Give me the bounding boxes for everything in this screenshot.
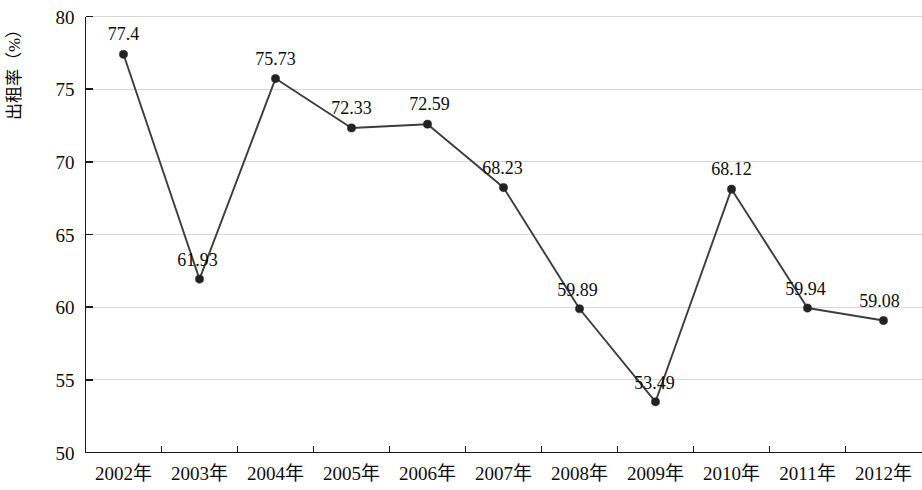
data-point-marker: [499, 183, 507, 191]
data-point-marker: [347, 124, 355, 132]
x-axis-tick-label: 2006年: [399, 463, 456, 484]
data-value-label: 61.93: [177, 250, 218, 270]
y-axis-tick-label: 55: [56, 370, 75, 391]
data-point-marker: [575, 305, 583, 313]
x-axis-tick-label: 2011年: [779, 463, 835, 484]
data-point-marker: [651, 398, 659, 406]
x-axis-tick-label: 2005年: [323, 463, 380, 484]
data-value-label: 68.23: [482, 158, 523, 178]
x-axis-tick-label: 2007年: [475, 463, 532, 484]
data-value-label: 77.4: [108, 24, 140, 44]
x-axis-tick-label: 2009年: [627, 463, 684, 484]
data-point-marker: [727, 185, 735, 193]
x-axis-tick-label: 2012年: [855, 463, 912, 484]
data-point-marker: [803, 304, 811, 312]
data-value-label: 72.59: [409, 94, 450, 114]
y-axis-tick-label: 70: [56, 152, 75, 173]
x-axis-tick-label: 2008年: [551, 463, 608, 484]
y-axis-tick-label: 60: [56, 297, 75, 318]
y-axis-tick-label: 75: [56, 79, 75, 100]
data-value-label: 59.89: [557, 280, 598, 300]
series-line-out-rate: [124, 54, 884, 401]
data-point-marker: [119, 50, 127, 58]
data-value-label: 75.73: [255, 49, 296, 69]
x-axis-tick-labels: 2002年2003年2004年2005年2006年2007年2008年2009年…: [95, 463, 912, 484]
data-value-label: 68.12: [711, 159, 752, 179]
data-value-label: 59.94: [785, 279, 826, 299]
x-axis-ticks: [162, 446, 846, 453]
line-chart: 出租率（%） 50556065707580 2002年2003年2004年200…: [0, 0, 922, 490]
x-axis-tick-label: 2004年: [247, 463, 304, 484]
data-value-label: 72.33: [331, 98, 372, 118]
y-axis-tick-label: 65: [56, 225, 75, 246]
gridlines: [86, 17, 922, 453]
x-axis-tick-label: 2002年: [95, 463, 152, 484]
y-axis-tick-labels: 50556065707580: [56, 7, 75, 464]
data-value-label: 53.49: [634, 373, 675, 393]
data-point-marker: [195, 275, 203, 283]
series-markers: [119, 50, 887, 406]
x-axis-tick-label: 2010年: [703, 463, 760, 484]
y-axis-tick-label: 80: [56, 7, 75, 28]
data-value-label: 59.08: [859, 291, 900, 311]
y-axis-tick-label: 50: [56, 443, 75, 464]
data-point-marker: [271, 74, 279, 82]
plot-area: 50556065707580 2002年2003年2004年2005年2006年…: [0, 0, 922, 490]
data-point-marker: [423, 120, 431, 128]
x-axis-tick-label: 2003年: [171, 463, 228, 484]
series-polyline: [124, 54, 884, 401]
data-point-marker: [879, 316, 887, 324]
y-axis-ticks: [86, 17, 93, 453]
